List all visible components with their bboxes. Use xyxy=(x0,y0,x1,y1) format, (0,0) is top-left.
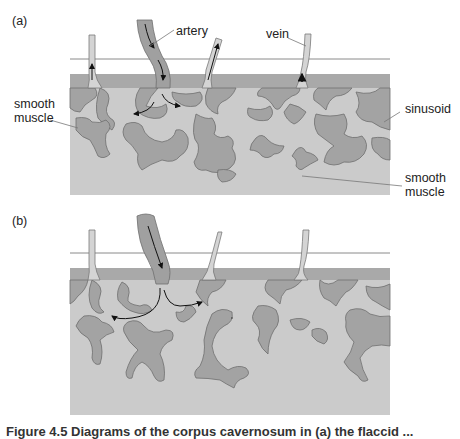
smooth-muscle-left-label-line1: smooth xyxy=(14,97,55,111)
panel-a-label: (a) xyxy=(12,14,27,28)
panel-b xyxy=(70,214,390,415)
smooth-muscle-right-label-line1: smooth xyxy=(405,171,446,185)
sinusoid-label: sinusoid xyxy=(405,102,451,116)
vein-leader-line xyxy=(288,38,306,46)
artery-label: artery xyxy=(176,24,208,38)
tissue-band-b xyxy=(70,268,390,280)
vein-label: vein xyxy=(266,27,289,41)
smooth-muscle-right-label-line2: muscle xyxy=(405,185,445,199)
figure-caption: Figure 4.5 Diagrams of the corpus cavern… xyxy=(6,424,413,439)
panel-a xyxy=(50,20,402,195)
speck xyxy=(231,317,233,319)
smooth-muscle-left-label-line2: muscle xyxy=(14,111,54,125)
panel-b-label: (b) xyxy=(12,214,27,228)
tissue-band xyxy=(70,74,390,88)
